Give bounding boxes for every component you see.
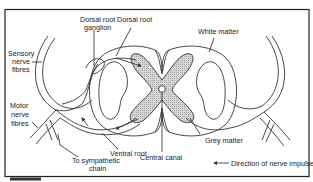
label-sensory-3: fibres	[12, 65, 30, 74]
label-dorsal-root-ganglion-2: ganglion	[84, 23, 111, 32]
spinal-cord-diagram: Dorsal root ganglion Dorsal root White m…	[0, 0, 313, 182]
label-motor-2: nerve	[11, 110, 29, 119]
label-white-matter: White matter	[198, 27, 239, 36]
legend-label: Direction of nerve impulses	[231, 159, 313, 168]
label-grey-matter: Grey matter	[205, 136, 244, 145]
caption-bar	[10, 178, 41, 181]
label-motor-1: Motor	[10, 101, 29, 110]
label-sympathetic-2: chain	[89, 164, 106, 173]
label-dorsal-root: Dorsal root	[117, 15, 152, 24]
central-canal	[159, 86, 166, 93]
label-motor-3: fibres	[11, 119, 29, 128]
label-central-canal: Central canal	[140, 153, 183, 162]
